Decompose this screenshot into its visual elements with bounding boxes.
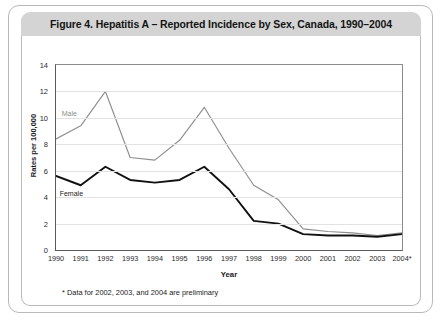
x-axis-tick: 2003	[369, 254, 385, 263]
x-axis-tick: 1993	[122, 254, 138, 263]
gridline	[56, 224, 402, 225]
gridline	[56, 144, 402, 145]
x-axis-tick-labels: 1990199119921993199419951996199719981999…	[55, 254, 403, 270]
y-axis-tick: 6	[44, 166, 48, 175]
x-axis-tick: 1998	[246, 254, 262, 263]
x-axis-tick: 1990	[48, 254, 64, 263]
x-axis-tick: 1994	[147, 254, 163, 263]
page-title: Figure 4. Hepatitis A – Reported Inciden…	[21, 12, 421, 36]
x-axis-title: Year	[55, 270, 403, 279]
y-axis-tick: 10	[40, 113, 48, 122]
x-axis-tick: 2002	[344, 254, 360, 263]
gridline	[56, 118, 402, 119]
y-axis-tick: 4	[44, 193, 48, 202]
y-axis-tick: 14	[40, 61, 48, 70]
x-axis-tick: 1996	[196, 254, 212, 263]
figure-card: Figure 4. Hepatitis A – Reported Inciden…	[8, 5, 433, 313]
series-lines	[56, 65, 402, 250]
y-axis-tick-labels: 02468101214	[22, 64, 52, 251]
y-axis-tick: 2	[44, 219, 48, 228]
y-axis-tick: 12	[40, 87, 48, 96]
x-axis-tick: 2000	[295, 254, 311, 263]
gridline	[56, 171, 402, 172]
series-label-male: Male	[62, 110, 77, 117]
chart-panel: Rates per 100,000 02468101214 Male Femal…	[21, 36, 421, 306]
x-axis-tick: 1995	[171, 254, 187, 263]
x-axis-tick: 2001	[320, 254, 336, 263]
x-axis-tick: 1992	[97, 254, 113, 263]
plot-wrapper: Rates per 100,000 02468101214 Male Femal…	[22, 36, 422, 306]
y-axis-tick: 8	[44, 140, 48, 149]
x-axis-tick: 1997	[221, 254, 237, 263]
series-line-male	[56, 91, 402, 235]
x-axis-tick: 1991	[73, 254, 89, 263]
series-line-female	[56, 167, 402, 237]
gridline	[56, 197, 402, 198]
x-axis-tick: 2004*	[392, 254, 411, 263]
plot-area: Male Female	[55, 64, 403, 251]
x-axis-tick: 1999	[270, 254, 286, 263]
gridline	[56, 91, 402, 92]
series-label-female: Female	[60, 190, 83, 197]
figure-title-bar: Figure 4. Hepatitis A – Reported Inciden…	[21, 12, 421, 36]
figure-footnote: * Data for 2002, 2003, and 2004 are prel…	[62, 288, 218, 297]
